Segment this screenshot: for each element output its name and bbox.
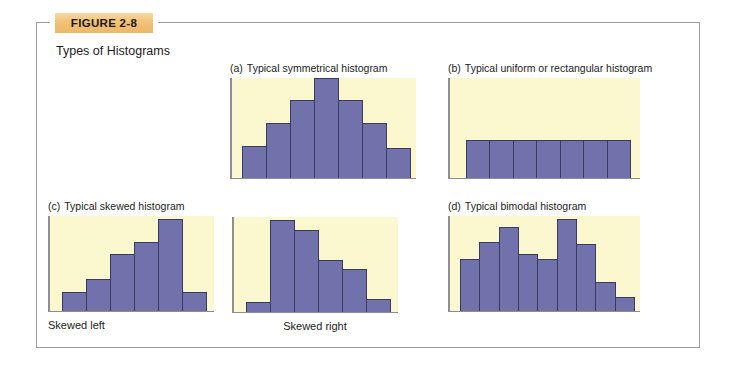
panel-tag-a: (a): [230, 62, 243, 74]
figure-title: Types of Histograms: [56, 44, 170, 58]
bar: [466, 140, 490, 178]
x-axis-symmetrical: [230, 178, 416, 180]
bars-uniform: [466, 78, 630, 178]
bar: [557, 219, 577, 311]
y-axis-skewed-left: [48, 216, 50, 312]
bar: [86, 279, 111, 310]
bar: [576, 244, 596, 310]
bar: [242, 146, 267, 178]
bar: [583, 140, 607, 178]
panel-tag-b: (b): [448, 62, 461, 74]
panel-caption-text-b: Typical uniform or rectangular histogram: [465, 62, 652, 74]
bar: [366, 299, 391, 311]
panel-bimodal: (d)Typical bimodal histogram: [448, 200, 640, 312]
panel-skewed-right: Skewed right: [232, 217, 398, 332]
panel-caption-bimodal: (d)Typical bimodal histogram: [448, 200, 640, 212]
y-axis-symmetrical: [230, 78, 232, 179]
panel-tag-d: (d): [448, 200, 461, 212]
histogram-symmetrical: [230, 78, 416, 179]
bar: [110, 254, 135, 311]
panel-caption-uniform: (b)Typical uniform or rectangular histog…: [448, 62, 652, 74]
y-axis-uniform: [448, 78, 450, 179]
bar: [134, 242, 159, 310]
bars-bimodal: [460, 216, 634, 311]
bar: [479, 242, 499, 310]
bar: [518, 254, 538, 311]
bar: [182, 292, 207, 311]
x-axis-bimodal: [448, 311, 640, 313]
panel-symmetrical: (a)Typical symmetrical histogram: [230, 62, 416, 179]
y-axis-bimodal: [448, 216, 450, 312]
sub-label-skewed-left: Skewed left: [48, 319, 214, 331]
bar: [615, 297, 635, 310]
bar: [536, 140, 560, 178]
histogram-skewed-left: [48, 216, 214, 312]
bar: [386, 148, 411, 178]
x-axis-skewed-left: [48, 311, 214, 313]
bar: [62, 292, 87, 311]
figure-number-badge: FIGURE 2-8: [55, 13, 153, 33]
bar: [499, 227, 519, 310]
bars-skewed-left: [62, 216, 206, 311]
panel-uniform: (b)Typical uniform or rectangular histog…: [448, 62, 652, 179]
bar: [338, 100, 363, 178]
bar: [314, 78, 339, 178]
bars-symmetrical: [242, 78, 410, 178]
panel-skewed-left: (c)Typical skewed histogram Skewed left: [48, 200, 214, 331]
bar: [342, 269, 367, 312]
histogram-skewed-right: [232, 217, 398, 313]
x-axis-skewed-right: [232, 312, 398, 314]
bar: [318, 260, 343, 312]
x-axis-uniform: [448, 178, 640, 180]
histogram-bimodal: [448, 216, 640, 312]
bar: [290, 100, 315, 178]
panel-caption-text-a: Typical symmetrical histogram: [247, 62, 388, 74]
bar: [489, 140, 513, 178]
bar: [158, 219, 183, 311]
figure-number-label: FIGURE 2-8: [71, 17, 137, 29]
bars-skewed-right: [246, 217, 390, 312]
panel-caption-text-c: Typical skewed histogram: [64, 200, 184, 212]
bar: [460, 259, 480, 311]
bar: [607, 140, 631, 178]
bar: [270, 220, 295, 312]
panel-tag-c: (c): [48, 200, 60, 212]
bar: [537, 259, 557, 311]
histogram-uniform: [448, 78, 640, 179]
bar: [246, 302, 271, 311]
bar: [266, 123, 291, 178]
bar: [595, 282, 615, 310]
sub-label-skewed-right: Skewed right: [232, 320, 398, 332]
panel-caption-symmetrical: (a)Typical symmetrical histogram: [230, 62, 416, 74]
bar: [513, 140, 537, 178]
panel-caption-skewed: (c)Typical skewed histogram: [48, 200, 214, 212]
y-axis-skewed-right: [232, 217, 234, 313]
panel-caption-text-d: Typical bimodal histogram: [465, 200, 586, 212]
bar: [362, 123, 387, 178]
bar: [560, 140, 584, 178]
bar: [294, 230, 319, 311]
